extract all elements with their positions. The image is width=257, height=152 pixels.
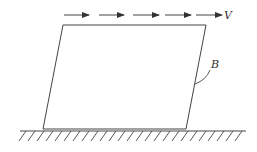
velocity-label: V — [224, 9, 233, 22]
boundary-label: B — [210, 58, 219, 71]
deformed-block — [43, 25, 206, 129]
hatch-stroke — [154, 131, 161, 141]
hatch-stroke — [46, 131, 53, 141]
hatch-stroke — [172, 131, 179, 141]
hatch-stroke — [37, 131, 44, 141]
hatch-stroke — [181, 131, 188, 141]
hatch-stroke — [100, 131, 107, 141]
hatch-stroke — [64, 131, 71, 141]
hatch-stroke — [136, 131, 143, 141]
hatch-stroke — [163, 131, 170, 141]
hatch-stroke — [208, 131, 215, 141]
hatch-stroke — [127, 131, 134, 141]
hatch-stroke — [226, 131, 233, 141]
hatch-stroke — [235, 131, 242, 141]
hatch-stroke — [82, 131, 89, 141]
hatch-stroke — [73, 131, 80, 141]
hatch-stroke — [109, 131, 116, 141]
hatch-stroke — [28, 131, 35, 141]
hatch-stroke — [217, 131, 224, 141]
hatch-stroke — [91, 131, 98, 141]
hatch-stroke — [199, 131, 206, 141]
ground-hatching — [19, 131, 242, 141]
hatch-stroke — [118, 131, 125, 141]
hatch-stroke — [145, 131, 152, 141]
shear-flow-diagram: V B — [0, 0, 257, 152]
hatch-stroke — [19, 131, 26, 141]
hatch-stroke — [190, 131, 197, 141]
diagram-canvas: V B — [0, 0, 257, 152]
hatch-stroke — [55, 131, 62, 141]
